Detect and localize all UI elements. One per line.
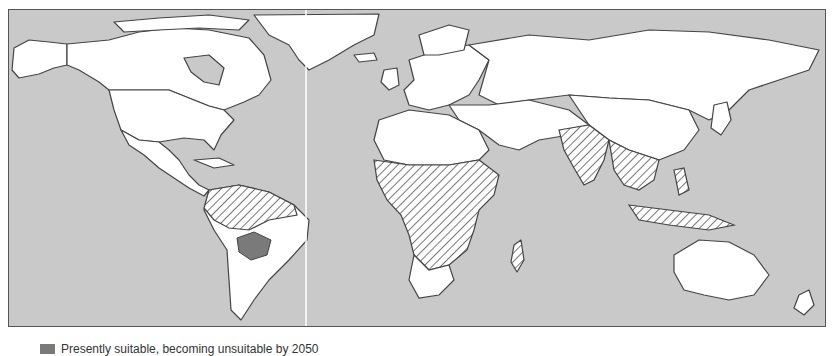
legend-swatch-solid-gray (40, 344, 55, 354)
land-australia (674, 240, 769, 300)
land-japan (711, 102, 731, 135)
legend: Presently suitable, becoming unsuitable … (40, 341, 319, 356)
land-uk (381, 68, 399, 90)
hatch-south-asia (559, 125, 609, 185)
land-iceland (354, 53, 377, 62)
land-scandinavia (419, 25, 469, 55)
map-svg (9, 10, 825, 326)
land-alaska (12, 40, 67, 78)
legend-label: Presently suitable, becoming unsuitable … (61, 342, 319, 356)
land-new-zealand (794, 290, 814, 315)
world-map (8, 9, 826, 327)
hatch-philippines (674, 168, 689, 195)
land-europe (404, 45, 489, 110)
land-arctic-islands (114, 15, 249, 32)
hatch-sub-saharan-africa (374, 160, 499, 270)
hatch-indonesia (629, 205, 734, 230)
land-cuba (194, 158, 234, 168)
land-madagascar (511, 240, 524, 272)
